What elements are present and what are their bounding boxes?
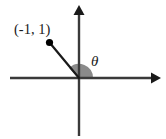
point-coordinate-label: (-1, 1) [14,21,50,38]
theta-angle-label: θ [91,53,99,69]
filled-circle-icon [46,39,53,46]
angle-diagram-figure: (-1, 1) θ [0,0,166,139]
arrow-up-icon [74,5,85,15]
coordinate-plane-svg: (-1, 1) θ [0,0,166,139]
arrow-right-icon [151,73,161,84]
terminal-side-ray [50,43,80,79]
